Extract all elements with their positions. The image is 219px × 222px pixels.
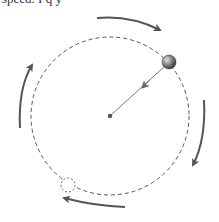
ghost-ball: [61, 178, 75, 192]
rotation-arrow-top: [97, 18, 160, 31]
radius-vector-line: [111, 66, 165, 115]
center-point: [108, 114, 112, 118]
rotation-arrow-right: [193, 100, 204, 165]
rotation-arrow-bottom: [64, 198, 125, 207]
circular-motion-diagram: [0, 0, 219, 222]
rotation-arrow-left: [20, 65, 32, 128]
radius-vector-arrowhead: [144, 80, 150, 86]
ball: [162, 55, 176, 69]
